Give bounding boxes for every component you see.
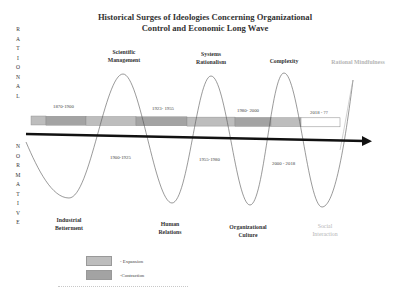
- bar-segment-expansion: [271, 118, 301, 127]
- legend-contraction-label: -Contraction: [120, 273, 144, 278]
- label-line: Rationalism: [183, 58, 239, 66]
- peak-label-systems-rationalism: Systems Rationalism: [183, 50, 239, 66]
- bar-segment-expansion: [86, 117, 136, 126]
- trough-label-organizational-culture: Organizational Culture: [218, 223, 278, 239]
- label-line: Scientific: [96, 48, 152, 56]
- period-label: 1900-1925: [110, 155, 131, 160]
- bar-segment-expansion: [31, 116, 46, 125]
- peak-label-rational-mindfulness: Rational Mindfulness: [318, 58, 398, 66]
- peak-label-scientific-management: Scientific Management: [96, 48, 152, 64]
- trough-label-social-interaction: Social Interaction: [300, 222, 350, 238]
- period-label: 1870-1900: [53, 104, 74, 109]
- label-line: Human: [148, 220, 192, 228]
- period-label: 2000 - 2018: [272, 161, 295, 166]
- label-line: Organizational: [218, 223, 278, 231]
- wave-diagram: [0, 0, 405, 292]
- legend-expansion-label: - Expansion: [120, 259, 143, 264]
- trough-label-human-relations: Human Relations: [148, 220, 192, 236]
- label-line: Interaction: [300, 230, 350, 238]
- legend-expansion: - Expansion: [86, 256, 143, 266]
- cropped-caption-line: [58, 286, 188, 288]
- bar-segment-contraction: [235, 117, 271, 126]
- contraction-swatch: [86, 270, 112, 280]
- period-label: 1923- 1955: [152, 106, 174, 111]
- label-line: Systems: [183, 50, 239, 58]
- trough-label-industrial-betterment: Industrial Betterment: [44, 216, 94, 232]
- label-line: Complexity: [258, 57, 310, 65]
- period-label: 2018 - ??: [310, 110, 328, 115]
- label-line: Management: [96, 56, 152, 64]
- label-line: Social: [300, 222, 350, 230]
- label-line: Industrial: [44, 216, 94, 224]
- bar-segment-future: [301, 118, 340, 127]
- period-label: 1980- 2000: [237, 108, 259, 113]
- timeline-bar: [31, 116, 340, 127]
- expansion-swatch: [86, 256, 112, 266]
- peak-label-complexity: Complexity: [258, 57, 310, 65]
- time-arrow: [26, 134, 372, 146]
- label-line: Relations: [148, 228, 192, 236]
- label-line: Culture: [218, 231, 278, 239]
- label-line: Rational Mindfulness: [318, 58, 398, 66]
- bar-segment-contraction: [46, 116, 86, 125]
- period-label: 1955-1980: [199, 157, 220, 162]
- legend-contraction: -Contraction: [86, 270, 144, 280]
- label-line: Betterment: [44, 224, 94, 232]
